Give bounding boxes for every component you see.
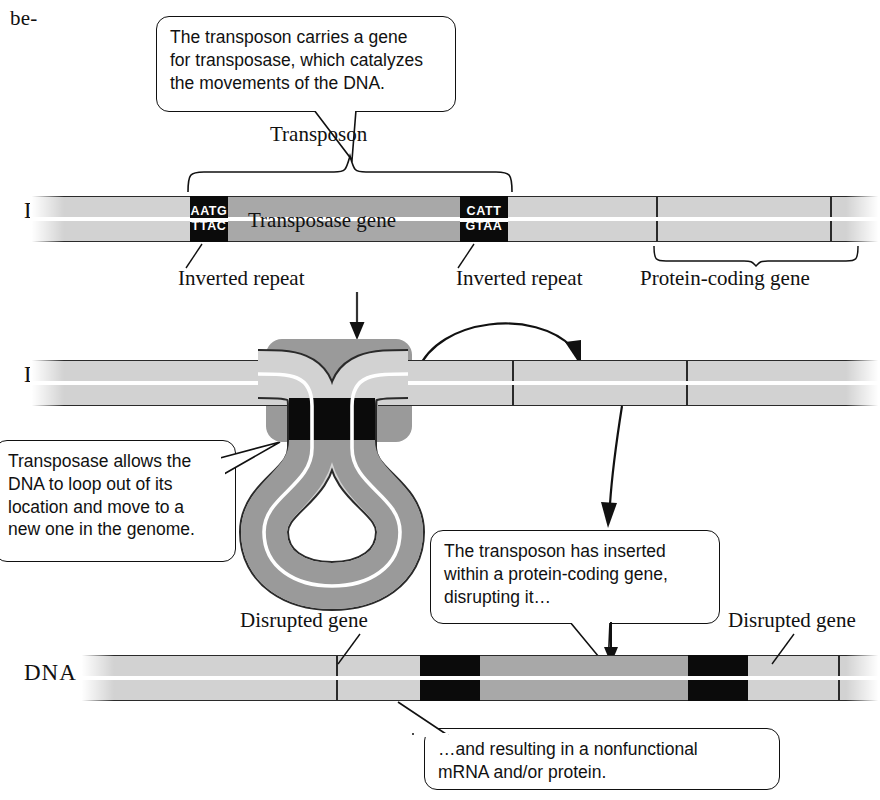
dna-segment-panel3-left [80, 655, 420, 701]
inverted-repeat-left-label: Inverted repeat [178, 266, 305, 291]
disrupted-gene-right-leader [766, 634, 802, 666]
protein-coding-gene-bracket [652, 244, 860, 268]
flow-arrow-curve-down [586, 404, 646, 532]
callout-loop-out-text: Transposase allows the DNA to loop out o… [8, 450, 223, 541]
dna-strand-panel3 [80, 655, 880, 701]
inverted-repeat-box-left: AATG TTAC [190, 196, 228, 242]
callout-inserted-text: The transposon has inserted within a pro… [444, 540, 707, 608]
protein-coding-gene-label: Protein-coding gene [640, 266, 810, 291]
callout-loop-out: Transposase allows the DNA to loop out o… [0, 440, 236, 562]
flow-arrow-down-1 [344, 292, 374, 342]
gene-boundary-left [656, 196, 658, 242]
dna-segment-flank-right [508, 196, 880, 242]
gene-boundary-panel2-left [512, 360, 514, 406]
inverted-repeat-left-top: AATG [191, 204, 228, 219]
callout-inserted: The transposon has inserted within a pro… [430, 530, 720, 624]
dna-strand-panel1: AATG TTAC CATT GTAA [30, 196, 880, 242]
dna-label-panel3: DNA [24, 660, 77, 686]
callout-nonfunctional: …and resulting in a nonfunctional mRNA a… [424, 728, 780, 790]
dna-strand-panel2-right [378, 360, 880, 406]
text-fragment-be: be- [10, 6, 37, 31]
gene-boundary-panel3-right [838, 655, 840, 701]
disrupted-gene-left-leader [332, 634, 368, 666]
disrupted-gene-right-label: Disrupted gene [728, 608, 856, 633]
callout-nonfunctional-tail [396, 700, 466, 740]
dna-segment-inserted-transposase-gene [480, 655, 688, 701]
disrupted-gene-left-label: Disrupted gene [240, 608, 368, 633]
transposase-gene-label: Transposase gene [248, 208, 396, 233]
gene-boundary-right [830, 196, 832, 242]
inverted-repeat-right-label: Inverted repeat [456, 266, 583, 291]
inverted-repeat-right-top: CATT [467, 204, 502, 219]
dna-segment-panel2-right [378, 360, 880, 406]
callout-transposase-gene: The transposon carries a gene for transp… [156, 16, 456, 112]
inverted-repeat-box-right: CATT GTAA [460, 196, 508, 242]
transposon-bracket-label: Transposon [270, 122, 367, 147]
transposon-loop [250, 336, 450, 586]
callout-transposase-gene-text: The transposon carries a gene for transp… [170, 26, 443, 94]
diagram-canvas: be- The transposon carries a gene for tr… [0, 0, 880, 800]
callout-nonfunctional-text: …and resulting in a nonfunctional mRNA a… [438, 738, 767, 784]
inverted-repeat-inserted-right [688, 655, 748, 701]
inverted-repeat-inserted-left [420, 655, 480, 701]
gene-boundary-panel2-right [686, 360, 688, 406]
transposon-bracket [186, 152, 516, 194]
